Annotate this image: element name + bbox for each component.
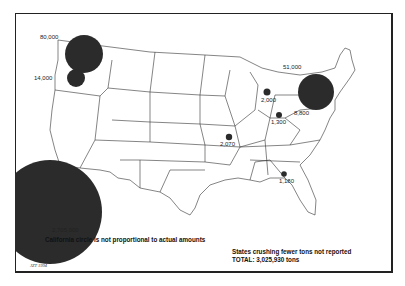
circle-california (0, 160, 102, 264)
label-new-york: 51,000 (283, 64, 301, 70)
label-pennsylvania: 8,800 (294, 110, 309, 116)
circle-missouri (226, 134, 232, 140)
circle-washington (65, 35, 103, 73)
label-washington: 80,000 (40, 34, 58, 40)
label-missouri: 2,070 (220, 141, 235, 147)
circle-oregon (67, 69, 85, 87)
label-california: 2,705,000 (52, 227, 79, 233)
circle-georgia (281, 171, 287, 177)
label-michigan: 2,000 (261, 97, 276, 103)
states-note: States crushing fewer tons not reported (232, 248, 351, 255)
total-label: TOTAL: 3,025,930 tons (232, 256, 299, 263)
california-note: California circle is not proportional to… (45, 236, 205, 243)
label-ohio: 1,300 (271, 119, 286, 125)
circle-michigan (264, 89, 271, 96)
credit: JZT 1994 (30, 263, 47, 268)
circle-new-york (298, 74, 334, 110)
circle-ohio (276, 112, 282, 118)
label-georgia: 1,180 (279, 178, 294, 184)
us-map (0, 0, 405, 286)
label-oregon: 14,000 (34, 75, 52, 81)
